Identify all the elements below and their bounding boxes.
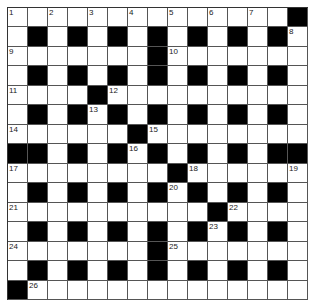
grid-cell[interactable] bbox=[148, 86, 168, 105]
grid-cell[interactable] bbox=[48, 203, 68, 222]
grid-cell[interactable] bbox=[88, 281, 108, 300]
grid-cell[interactable] bbox=[88, 144, 108, 163]
grid-cell[interactable]: 6 bbox=[208, 8, 228, 27]
grid-cell[interactable]: 17 bbox=[8, 164, 28, 183]
grid-cell[interactable] bbox=[8, 27, 28, 46]
grid-cell[interactable]: 4 bbox=[128, 8, 148, 27]
grid-cell[interactable] bbox=[28, 242, 48, 261]
grid-cell[interactable] bbox=[288, 183, 308, 202]
grid-cell[interactable] bbox=[248, 164, 268, 183]
grid-cell[interactable] bbox=[228, 86, 248, 105]
grid-cell[interactable] bbox=[128, 164, 148, 183]
grid-cell[interactable] bbox=[88, 261, 108, 280]
grid-cell[interactable] bbox=[128, 105, 148, 124]
grid-cell[interactable] bbox=[48, 47, 68, 66]
grid-cell[interactable]: 22 bbox=[228, 203, 248, 222]
grid-cell[interactable] bbox=[8, 222, 28, 241]
grid-cell[interactable] bbox=[288, 222, 308, 241]
grid-cell[interactable] bbox=[208, 183, 228, 202]
grid-cell[interactable] bbox=[208, 261, 228, 280]
grid-cell[interactable] bbox=[28, 203, 48, 222]
grid-cell[interactable] bbox=[68, 8, 88, 27]
grid-cell[interactable] bbox=[288, 47, 308, 66]
grid-cell[interactable] bbox=[248, 86, 268, 105]
grid-cell[interactable] bbox=[208, 86, 228, 105]
grid-cell[interactable]: 21 bbox=[8, 203, 28, 222]
grid-cell[interactable]: 15 bbox=[148, 125, 168, 144]
grid-cell[interactable] bbox=[168, 86, 188, 105]
grid-cell[interactable] bbox=[188, 242, 208, 261]
grid-cell[interactable] bbox=[128, 222, 148, 241]
grid-cell[interactable] bbox=[8, 105, 28, 124]
grid-cell[interactable] bbox=[268, 47, 288, 66]
grid-cell[interactable] bbox=[128, 86, 148, 105]
grid-cell[interactable] bbox=[168, 27, 188, 46]
grid-cell[interactable] bbox=[148, 8, 168, 27]
grid-cell[interactable] bbox=[168, 261, 188, 280]
grid-cell[interactable] bbox=[108, 203, 128, 222]
grid-cell[interactable] bbox=[228, 242, 248, 261]
grid-cell[interactable] bbox=[228, 125, 248, 144]
grid-cell[interactable] bbox=[248, 105, 268, 124]
grid-cell[interactable] bbox=[248, 261, 268, 280]
grid-cell[interactable]: 9 bbox=[8, 47, 28, 66]
grid-cell[interactable] bbox=[48, 183, 68, 202]
grid-cell[interactable]: 2 bbox=[48, 8, 68, 27]
grid-cell[interactable] bbox=[68, 242, 88, 261]
grid-cell[interactable]: 25 bbox=[168, 242, 188, 261]
grid-cell[interactable] bbox=[28, 86, 48, 105]
grid-cell[interactable]: 19 bbox=[288, 164, 308, 183]
grid-cell[interactable] bbox=[248, 281, 268, 300]
grid-cell[interactable] bbox=[228, 164, 248, 183]
grid-cell[interactable] bbox=[208, 125, 228, 144]
grid-cell[interactable] bbox=[168, 281, 188, 300]
grid-cell[interactable] bbox=[248, 66, 268, 85]
grid-cell[interactable] bbox=[8, 66, 28, 85]
grid-cell[interactable] bbox=[188, 47, 208, 66]
grid-cell[interactable] bbox=[188, 125, 208, 144]
grid-cell[interactable]: 24 bbox=[8, 242, 28, 261]
grid-cell[interactable] bbox=[268, 125, 288, 144]
grid-cell[interactable] bbox=[268, 203, 288, 222]
grid-cell[interactable] bbox=[208, 164, 228, 183]
grid-cell[interactable] bbox=[108, 8, 128, 27]
grid-cell[interactable] bbox=[88, 47, 108, 66]
grid-cell[interactable] bbox=[288, 125, 308, 144]
grid-cell[interactable] bbox=[208, 144, 228, 163]
grid-cell[interactable] bbox=[8, 183, 28, 202]
grid-cell[interactable] bbox=[288, 66, 308, 85]
grid-cell[interactable] bbox=[128, 242, 148, 261]
grid-cell[interactable] bbox=[148, 164, 168, 183]
grid-cell[interactable] bbox=[88, 27, 108, 46]
grid-cell[interactable] bbox=[268, 164, 288, 183]
grid-cell[interactable] bbox=[268, 281, 288, 300]
grid-cell[interactable] bbox=[248, 144, 268, 163]
grid-cell[interactable]: 26 bbox=[28, 281, 48, 300]
grid-cell[interactable] bbox=[208, 281, 228, 300]
grid-cell[interactable] bbox=[168, 203, 188, 222]
grid-cell[interactable] bbox=[48, 222, 68, 241]
grid-cell[interactable]: 14 bbox=[8, 125, 28, 144]
grid-cell[interactable] bbox=[28, 47, 48, 66]
grid-cell[interactable] bbox=[188, 203, 208, 222]
grid-cell[interactable] bbox=[248, 183, 268, 202]
grid-cell[interactable] bbox=[68, 47, 88, 66]
grid-cell[interactable] bbox=[168, 125, 188, 144]
grid-cell[interactable] bbox=[248, 27, 268, 46]
grid-cell[interactable] bbox=[128, 261, 148, 280]
grid-cell[interactable] bbox=[208, 66, 228, 85]
grid-cell[interactable] bbox=[288, 242, 308, 261]
grid-cell[interactable] bbox=[208, 27, 228, 46]
grid-cell[interactable] bbox=[248, 47, 268, 66]
grid-cell[interactable] bbox=[208, 47, 228, 66]
grid-cell[interactable] bbox=[268, 86, 288, 105]
grid-cell[interactable] bbox=[128, 203, 148, 222]
grid-cell[interactable] bbox=[48, 164, 68, 183]
grid-cell[interactable] bbox=[88, 222, 108, 241]
grid-cell[interactable]: 23 bbox=[208, 222, 228, 241]
grid-cell[interactable] bbox=[188, 8, 208, 27]
grid-cell[interactable] bbox=[108, 242, 128, 261]
grid-cell[interactable] bbox=[48, 261, 68, 280]
grid-cell[interactable]: 5 bbox=[168, 8, 188, 27]
grid-cell[interactable] bbox=[108, 164, 128, 183]
